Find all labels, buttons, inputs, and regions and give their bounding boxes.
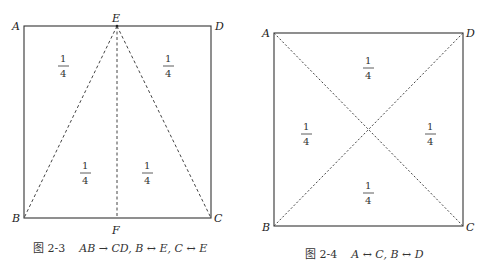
- dashed-line-eb: [24, 26, 117, 218]
- fraction-right: 1 4: [425, 121, 436, 147]
- caption-label: 图 2-3: [33, 242, 65, 255]
- svg-text:1: 1: [427, 121, 433, 132]
- svg-text:1: 1: [165, 53, 171, 64]
- svg-text:1: 1: [144, 160, 150, 171]
- label-d-2: D: [465, 27, 475, 40]
- svg-text:1: 1: [365, 55, 371, 66]
- fraction-left: 1 4: [301, 121, 312, 147]
- fraction-top-left: 1 4: [58, 53, 69, 79]
- label-c-2: C: [466, 221, 475, 234]
- svg-text:4: 4: [365, 70, 371, 81]
- caption-label: 图 2-4: [305, 248, 337, 261]
- svg-text:4: 4: [303, 136, 309, 147]
- label-d: D: [214, 20, 224, 33]
- point-e-dot: [116, 25, 119, 28]
- caption-figure-2-4: 图 2-4 A ↔ C, B ↔ D: [305, 245, 424, 261]
- fraction-bottom-left: 1 4: [80, 160, 91, 186]
- svg-text:1: 1: [365, 180, 371, 191]
- svg-text:1: 1: [60, 53, 66, 64]
- fraction-top: 1 4: [363, 55, 374, 81]
- diagram-canvas: A D E B F C 1 4 1 4 1 4 1 4: [0, 0, 491, 271]
- figure-2-3: A D E B F C 1 4 1 4 1 4 1 4: [11, 12, 224, 237]
- label-c: C: [214, 212, 223, 225]
- dashed-line-ec: [117, 26, 211, 218]
- fraction-bottom: 1 4: [363, 180, 374, 206]
- svg-text:4: 4: [365, 195, 371, 206]
- label-f: F: [111, 224, 120, 237]
- label-b-2: B: [261, 221, 270, 234]
- figure-2-4: A D B C 1 4 1 4 1 4 1 4: [261, 27, 475, 234]
- caption-math: AB → CD, B ↔ E, C ↔ E: [79, 242, 207, 255]
- label-e: E: [111, 12, 120, 25]
- label-b: B: [11, 212, 20, 225]
- svg-text:4: 4: [82, 175, 88, 186]
- svg-text:1: 1: [82, 160, 88, 171]
- svg-text:1: 1: [303, 121, 309, 132]
- svg-text:4: 4: [144, 175, 150, 186]
- label-a-2: A: [261, 27, 270, 40]
- svg-text:4: 4: [60, 68, 66, 79]
- svg-text:4: 4: [165, 68, 171, 79]
- fraction-top-right: 1 4: [163, 53, 174, 79]
- caption-math: A ↔ C, B ↔ D: [351, 248, 423, 261]
- fraction-bottom-right: 1 4: [142, 160, 153, 186]
- label-a: A: [11, 20, 20, 33]
- caption-figure-2-3: 图 2-3 AB → CD, B ↔ E, C ↔ E: [33, 239, 207, 255]
- svg-text:4: 4: [427, 136, 433, 147]
